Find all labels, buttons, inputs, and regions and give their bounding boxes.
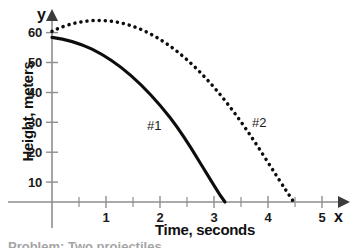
y-axis-letter: y <box>37 7 46 23</box>
y-tick-label-60: 60 <box>4 26 42 39</box>
y-tick-label-50: 50 <box>4 56 42 69</box>
series-curve-1 <box>52 37 225 202</box>
x-tick-label-1: 1 <box>91 211 121 224</box>
y-tick-label-30: 30 <box>4 116 42 129</box>
y-tick-label-20: 20 <box>4 146 42 159</box>
y-axis-arrowhead <box>46 9 58 21</box>
plot-canvas <box>0 0 353 248</box>
x-tick-label-2: 2 <box>145 211 175 224</box>
x-tick-label-5: 5 <box>307 211 337 224</box>
x-axis-arrowhead <box>338 196 350 208</box>
projectile-height-vs-time-chart: Height, meters Time, seconds y x 60 50 4… <box>0 0 353 248</box>
y-tick-label-10: 10 <box>4 176 42 189</box>
y-tick-label-40: 40 <box>4 86 42 99</box>
series-label-1: #1 <box>147 119 161 132</box>
x-tick-label-4: 4 <box>253 211 283 224</box>
x-tick-label-3: 3 <box>199 211 229 224</box>
caption-partial-text: Problem: Two projectiles... <box>8 240 348 248</box>
series-label-2: #2 <box>252 116 266 129</box>
